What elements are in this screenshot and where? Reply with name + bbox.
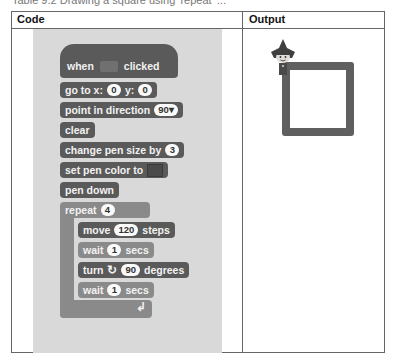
wait-secs-input[interactable]: 1	[107, 244, 121, 256]
secs-label: secs	[125, 282, 148, 298]
move-steps-block[interactable]: move 120 steps	[78, 222, 175, 238]
table-header-row: Code Output	[12, 12, 384, 29]
x-input[interactable]: 0	[107, 84, 121, 96]
wait-secs-block-2[interactable]: wait 1 secs	[78, 282, 154, 298]
direction-dropdown[interactable]: 90▾	[154, 104, 178, 116]
secs-label: secs	[125, 242, 148, 258]
wait-secs-block-1[interactable]: wait 1 secs	[78, 242, 154, 258]
hat-when-label: when	[67, 60, 94, 72]
turn-degrees-block[interactable]: turn ↻ 90 degrees	[78, 262, 189, 278]
header-code: Code	[17, 13, 45, 25]
pen-color-swatch[interactable]	[147, 164, 163, 177]
wait-secs-input[interactable]: 1	[107, 284, 121, 296]
goto-label: go to x:	[65, 82, 103, 98]
wait-label: wait	[83, 282, 103, 298]
repeat-loop-arrow-icon: ↲	[136, 300, 146, 314]
turn-degrees-input[interactable]: 90	[121, 264, 140, 276]
clear-block[interactable]: clear	[60, 122, 95, 138]
degrees-label: degrees	[144, 262, 184, 278]
pen-down-label: pen down	[65, 182, 114, 198]
turn-label: turn	[83, 262, 103, 278]
point-label: point in direction	[65, 102, 150, 118]
go-to-xy-block[interactable]: go to x: 0 y: 0	[60, 82, 157, 98]
pen-down-block[interactable]: pen down	[60, 182, 119, 198]
when-flag-clicked-block[interactable]: when clicked	[60, 44, 178, 78]
y-input[interactable]: 0	[138, 84, 152, 96]
move-label: move	[83, 222, 110, 238]
set-pen-color-block[interactable]: set pen color to	[60, 162, 168, 178]
steps-label: steps	[142, 222, 169, 238]
change-pen-size-block[interactable]: change pen size by 3	[60, 142, 184, 158]
pen-color-label: set pen color to	[65, 162, 143, 178]
column-divider	[242, 12, 243, 352]
move-steps-input[interactable]: 120	[114, 224, 138, 236]
pen-size-label: change pen size by	[65, 142, 161, 158]
header-output: Output	[249, 13, 285, 25]
repeat-count-input[interactable]: 4	[101, 204, 115, 216]
y-label: y:	[125, 82, 134, 98]
table-caption: Table 9.2 Drawing a square using 'repeat…	[12, 0, 226, 6]
clear-label: clear	[65, 122, 90, 138]
turn-clockwise-icon: ↻	[107, 262, 117, 278]
pen-size-input[interactable]: 3	[165, 144, 179, 156]
sprite-character-icon	[266, 38, 300, 78]
point-in-direction-block[interactable]: point in direction 90▾	[60, 102, 183, 118]
wait-label: wait	[83, 242, 103, 258]
green-flag-icon	[100, 61, 118, 72]
repeat-label: repeat	[65, 202, 97, 218]
repeat-header: repeat 4	[60, 202, 120, 218]
hat-clicked-label: clicked	[124, 60, 160, 72]
